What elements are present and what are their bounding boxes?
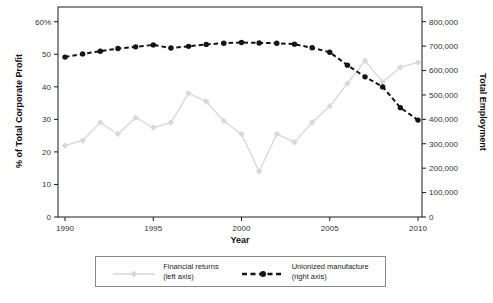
chart-figure: 0102030405060%0100,000200,000300,000400,…	[0, 0, 493, 303]
svg-text:2005: 2005	[321, 224, 339, 233]
left-axis-title: % of Total Corporate Profit	[14, 45, 26, 177]
svg-text:40: 40	[42, 83, 51, 92]
legend-label-financial-returns: Financial returns (left axis)	[163, 262, 218, 281]
unionized-manufacture-line-sample	[241, 266, 285, 278]
legend-item-unionized-manufacture: Unionized manufacture (right axis)	[241, 262, 369, 281]
svg-text:2000: 2000	[233, 224, 251, 233]
svg-text:600,000: 600,000	[429, 66, 458, 75]
svg-text:100,000: 100,000	[429, 188, 458, 197]
svg-text:800,000: 800,000	[429, 18, 458, 27]
svg-text:10: 10	[42, 180, 51, 189]
svg-text:200,000: 200,000	[429, 164, 458, 173]
legend-box: Financial returns (left axis) Unionized …	[95, 256, 386, 287]
svg-text:1990: 1990	[56, 224, 74, 233]
legend-label-unionized-manufacture: Unionized manufacture (right axis)	[292, 262, 369, 281]
svg-text:400,000: 400,000	[429, 115, 458, 124]
svg-text:300,000: 300,000	[429, 140, 458, 149]
right-axis-title: Total Employment	[476, 67, 488, 157]
svg-text:0: 0	[47, 213, 52, 222]
svg-text:500,000: 500,000	[429, 91, 458, 100]
svg-text:1995: 1995	[144, 224, 162, 233]
svg-text:60%: 60%	[35, 18, 51, 27]
svg-text:30: 30	[42, 115, 51, 124]
x-axis-title: Year	[58, 235, 422, 245]
legend-item-financial-returns: Financial returns (left axis)	[112, 262, 218, 281]
svg-text:2010: 2010	[409, 224, 427, 233]
financial-returns-line-sample	[112, 266, 156, 278]
svg-text:700,000: 700,000	[429, 42, 458, 51]
svg-text:50: 50	[42, 50, 51, 59]
svg-text:0: 0	[429, 213, 434, 222]
svg-text:20: 20	[42, 148, 51, 157]
